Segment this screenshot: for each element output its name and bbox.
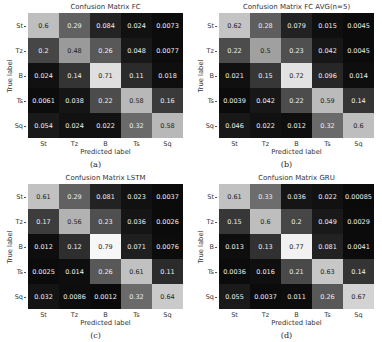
heatmap-cell: 0.012	[28, 234, 59, 259]
x-tick-label: St	[219, 140, 250, 148]
chart-title: Confusion Matrix FC	[28, 3, 183, 11]
panel-d: Confusion Matrix GRUTrue labelStTzBTsSq0…	[191, 171, 382, 342]
heatmap-cell: 0.32	[121, 113, 152, 138]
heatmap-cell: 0.14	[59, 63, 90, 88]
x-axis-title: Predicted label	[28, 148, 183, 156]
y-tick-label: Ts	[8, 268, 26, 276]
x-tick-label: St	[28, 311, 59, 319]
y-tick-label: Sq	[199, 122, 217, 130]
heatmap-cell: 0.084	[90, 13, 121, 38]
heatmap-cell: 0.096	[312, 63, 343, 88]
heatmap-cell: 0.071	[121, 234, 152, 259]
x-tick-label: St	[28, 140, 59, 148]
x-tick-label: Tz	[250, 311, 281, 319]
heatmap-cell: 0.15	[250, 63, 281, 88]
heatmap-cell: 0.16	[152, 88, 183, 113]
heatmap-cell: 0.081	[312, 234, 343, 259]
heatmap-cell: 0.33	[250, 184, 281, 209]
heatmap-cell: 0.023	[121, 184, 152, 209]
heatmap-cell: 0.013	[219, 234, 250, 259]
heatmap-cell: 0.011	[281, 284, 312, 309]
heatmap-cell: 0.11	[152, 259, 183, 284]
heatmap-cell: 0.0025	[28, 259, 59, 284]
y-tick-label: St	[8, 193, 26, 201]
heatmap-cell: 0.2	[281, 209, 312, 234]
heatmap-cell: 0.055	[219, 284, 250, 309]
y-tick-label: Ts	[199, 97, 217, 105]
heatmap-cell: 0.079	[281, 13, 312, 38]
y-tick-label: B	[199, 243, 217, 251]
heatmap-cell: 0.012	[281, 113, 312, 138]
heatmap-cell: 0.022	[312, 184, 343, 209]
heatmap-cell: 0.021	[219, 63, 250, 88]
heatmap-grid: 0.60.290.0840.0240.00730.20.480.260.0480…	[28, 13, 183, 138]
heatmap-cell: 0.17	[28, 209, 59, 234]
heatmap-cell: 0.042	[250, 88, 281, 113]
heatmap-cell: 0.0061	[28, 88, 59, 113]
heatmap-cell: 0.23	[281, 38, 312, 63]
x-tick-label: Ts	[121, 140, 152, 148]
y-tick-label: Ts	[8, 97, 26, 105]
chart-title: Confusion Matrix LSTM	[28, 174, 183, 182]
x-tick-label: Tz	[59, 311, 90, 319]
x-tick-label: Ts	[312, 311, 343, 319]
heatmap-cell: 0.64	[152, 284, 183, 309]
heatmap-cell: 0.0039	[219, 88, 250, 113]
chart-title: Confusion Matrix GRU	[219, 174, 374, 182]
y-tick-label: Tz	[199, 47, 217, 55]
heatmap-cell: 0.015	[312, 13, 343, 38]
heatmap-cell: 0.0086	[59, 284, 90, 309]
heatmap-cell: 0.26	[312, 284, 343, 309]
y-tick-label: Tz	[8, 47, 26, 55]
heatmap-cell: 0.23	[90, 209, 121, 234]
heatmap-cell: 0.71	[90, 63, 121, 88]
panel-b: Confusion Matrix FC AVG(n=5)True labelSt…	[191, 0, 382, 171]
heatmap-cell: 0.0073	[152, 13, 183, 38]
heatmap-cell: 0.15	[219, 209, 250, 234]
x-tick-label: Sq	[152, 311, 183, 319]
heatmap-cell: 0.58	[152, 113, 183, 138]
y-tick-label: Sq	[8, 293, 26, 301]
x-tick-label: Sq	[343, 140, 374, 148]
heatmap-cell: 0.29	[59, 13, 90, 38]
heatmap-cell: 0.022	[90, 113, 121, 138]
heatmap-cell: 0.58	[121, 88, 152, 113]
x-tick-label: St	[219, 311, 250, 319]
heatmap-cell: 0.63	[312, 259, 343, 284]
heatmap-cell: 0.72	[281, 63, 312, 88]
heatmap-cell: 0.12	[59, 234, 90, 259]
heatmap-cell: 0.29	[59, 184, 90, 209]
heatmap-cell: 0.036	[121, 209, 152, 234]
heatmap-cell: 0.022	[250, 113, 281, 138]
heatmap-grid: 0.610.330.0360.0220.000850.150.60.20.049…	[219, 184, 374, 309]
x-tick-label: B	[281, 311, 312, 319]
x-tick-label: Sq	[343, 311, 374, 319]
y-tick-label: St	[199, 193, 217, 201]
heatmap-cell: 0.21	[281, 259, 312, 284]
heatmap-cell: 0.0036	[219, 259, 250, 284]
heatmap-cell: 0.0076	[152, 234, 183, 259]
heatmap-cell: 0.024	[59, 113, 90, 138]
x-tick-label: B	[281, 140, 312, 148]
heatmap-grid: 0.610.290.0810.0230.00370.170.560.230.03…	[28, 184, 183, 309]
heatmap-cell: 0.6	[343, 113, 374, 138]
x-axis-title: Predicted label	[28, 319, 183, 327]
heatmap-cell: 0.0045	[343, 13, 374, 38]
heatmap-cell: 0.0045	[343, 38, 374, 63]
heatmap-cell: 0.61	[219, 184, 250, 209]
panel-a: Confusion Matrix FCTrue labelStTzBTsSq0.…	[0, 0, 191, 171]
x-tick-label: B	[90, 140, 121, 148]
y-tick-label: Sq	[199, 293, 217, 301]
subfigure-caption: (b)	[191, 160, 382, 169]
x-tick-label: Tz	[250, 140, 281, 148]
y-tick-label: B	[8, 72, 26, 80]
heatmap-cell: 0.6	[28, 13, 59, 38]
heatmap-cell: 0.77	[281, 234, 312, 259]
heatmap-cell: 0.081	[90, 184, 121, 209]
heatmap-cell: 0.018	[152, 63, 183, 88]
heatmap-cell: 0.59	[312, 88, 343, 113]
x-tick-label: Tz	[59, 140, 90, 148]
heatmap-cell: 0.14	[343, 88, 374, 113]
heatmap-cell: 0.048	[121, 38, 152, 63]
y-tick-label: Ts	[199, 268, 217, 276]
